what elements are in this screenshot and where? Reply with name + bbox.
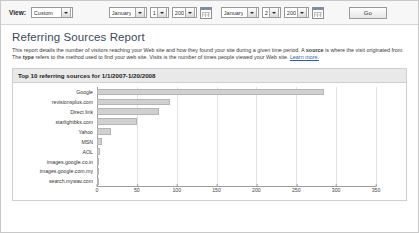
start-month-value: January (112, 10, 132, 16)
chart-bars: Googlerevisionsplus.comDirect linkstarli… (97, 87, 376, 187)
chevron-down-icon (61, 7, 71, 18)
chart-bar[interactable] (97, 108, 159, 114)
end-month-value: January (224, 10, 244, 16)
chevron-down-icon (185, 7, 195, 18)
report-page: View: Custom January 1 2007 January 20 (0, 0, 419, 233)
chart-tick-mark (217, 184, 218, 187)
chart-x-tick-label: 200 (252, 187, 261, 193)
chart-bar[interactable] (97, 118, 137, 124)
chart-category-label: MSN (13, 139, 93, 145)
chart-area: Googlerevisionsplus.comDirect linkstarli… (13, 83, 406, 200)
start-day-select[interactable]: 1 (150, 7, 169, 18)
chart-bar[interactable] (97, 168, 99, 174)
chevron-down-icon (247, 7, 257, 18)
chevron-down-icon (135, 7, 145, 18)
view-select-value: Custom (34, 10, 53, 16)
end-calendar-icon[interactable] (312, 7, 324, 19)
gridline (376, 87, 377, 187)
chart-tick-mark (137, 184, 138, 187)
description-source-term: source (306, 47, 324, 53)
chart-row: AOL (97, 147, 376, 157)
chart-tick-mark (376, 184, 377, 187)
chart-x-tick-label: 300 (332, 187, 341, 193)
chart-bar[interactable] (97, 138, 102, 144)
chart-x-tick-label: 0 (96, 187, 99, 193)
chart-x-tick-label: 250 (292, 187, 301, 193)
chart-x-ticks: 050100150200250300350 (97, 187, 376, 197)
chart-plot: Googlerevisionsplus.comDirect linkstarli… (97, 87, 376, 187)
chart-bar[interactable] (97, 158, 99, 164)
chart-row: images.google.co.in (97, 157, 376, 167)
start-calendar-icon[interactable] (200, 7, 212, 19)
start-year-value: 2007 (175, 10, 184, 16)
chart-x-tick-label: 50 (134, 187, 140, 193)
chart-category-label: revisionsplus.com (13, 99, 93, 105)
chevron-down-icon (269, 7, 279, 18)
chart-bar[interactable] (97, 89, 324, 95)
learn-more-link[interactable]: Learn more. (290, 54, 319, 60)
report-description: This report details the number of visito… (12, 47, 407, 62)
chart-x-tick-label: 150 (212, 187, 221, 193)
chart-row: revisionsplus.com (97, 97, 376, 107)
page-title: Referring Sources Report (12, 31, 407, 43)
chart-row: starlightbks.com (97, 117, 376, 127)
chart-category-label: Direct link (13, 109, 93, 115)
end-year-value: 2008 (287, 10, 296, 16)
description-part1: This report details the number of visito… (12, 47, 306, 53)
view-label: View: (9, 9, 26, 16)
chart-category-label: search.mywav.com (13, 178, 93, 184)
chart-row: MSN (97, 137, 376, 147)
chart-tick-mark (256, 184, 257, 187)
chart-x-tick-label: 100 (172, 187, 181, 193)
chart-row: search.mywav.com (97, 177, 376, 187)
chart-category-label: AOL (13, 149, 93, 155)
report-toolbar: View: Custom January 1 2007 January 20 (1, 1, 418, 25)
chart-tick-mark (296, 184, 297, 187)
chart-row: Direct link (97, 107, 376, 117)
chart-category-label: Yahoo (13, 129, 93, 135)
chart-category-label: starlightbks.com (13, 119, 93, 125)
chart-bar[interactable] (97, 148, 100, 154)
chart-category-label: images.google.co.in (13, 159, 93, 165)
start-year-select[interactable]: 2007 (172, 7, 197, 18)
end-year-select[interactable]: 2008 (284, 7, 309, 18)
chart-tick-mark (177, 184, 178, 187)
go-button[interactable]: Go (349, 7, 387, 19)
description-part3: refers to the method used to find your w… (34, 54, 290, 60)
chevron-down-icon (297, 7, 307, 18)
start-day-value: 1 (153, 10, 156, 16)
end-month-select[interactable]: January (221, 7, 259, 18)
start-month-select[interactable]: January (109, 7, 147, 18)
chart-row: images.google.com.my (97, 167, 376, 177)
chart-bar[interactable] (97, 128, 111, 134)
chart-tick-mark (336, 184, 337, 187)
chart-row: Yahoo (97, 127, 376, 137)
end-day-select[interactable]: 20 (262, 7, 281, 18)
chart-category-label: Google (13, 89, 93, 95)
chart-tick-mark (97, 184, 98, 187)
chart-bar[interactable] (97, 99, 170, 105)
chart-panel: Top 10 referring sources for 1/1/2007-1/… (12, 68, 407, 201)
end-day-value: 20 (265, 10, 268, 16)
chart-x-tick-label: 350 (372, 187, 381, 193)
description-type-term: type (23, 54, 34, 60)
chevron-down-icon (157, 7, 167, 18)
chart-panel-header: Top 10 referring sources for 1/1/2007-1/… (13, 69, 406, 83)
report-content: Referring Sources Report This report det… (1, 25, 418, 201)
chart-category-label: images.google.com.my (13, 168, 93, 174)
view-select[interactable]: Custom (31, 7, 73, 18)
chart-row: Google (97, 87, 376, 97)
